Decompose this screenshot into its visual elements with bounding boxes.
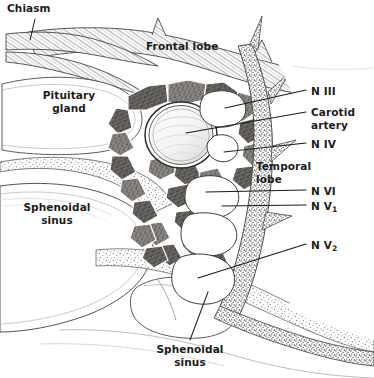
label-n-v1: N V1	[311, 200, 337, 213]
nerve-vi-cross-section	[185, 176, 239, 218]
label-n-iii: N III	[311, 85, 336, 98]
nerve-iii-cross-section	[200, 91, 246, 127]
label-sphenoidal-sinus-bottom-line2: sinus	[140, 356, 240, 369]
nerve-v1-cross-section	[181, 213, 237, 256]
nerve-iv-cross-section	[207, 135, 238, 162]
label-n-v2-prefix: N V	[311, 239, 332, 251]
label-sphenoidal-sinus-bottom-line1: Sphenoidal	[140, 343, 240, 356]
label-n-v1-prefix: N V	[311, 200, 332, 212]
label-sphenoidal-sinus-left-line2: sinus	[10, 214, 104, 227]
nerve-v2-cross-section	[172, 254, 235, 304]
label-n-iv: N IV	[311, 138, 336, 151]
label-frontal-lobe: Frontal lobe	[146, 40, 218, 53]
label-chiasm: Chiasm	[7, 2, 51, 15]
label-carotid-artery-line1: Carotid	[311, 106, 355, 119]
label-temporal-lobe-line1: Temporal	[256, 160, 311, 173]
label-n-vi: N VI	[311, 185, 336, 198]
label-sphenoidal-sinus-left-line1: Sphenoidal	[10, 201, 104, 214]
label-n-v2: N V2	[311, 239, 337, 252]
label-n-v2-subscript: 2	[332, 244, 337, 253]
label-n-v1-subscript: 1	[332, 205, 337, 214]
label-pituitary-gland-line1: Pituitary	[28, 89, 110, 102]
cavernous-sinus-figure: Chiasm Frontal lobe Pituitary gland Sphe…	[0, 0, 374, 378]
label-pituitary-gland-line2: gland	[28, 102, 110, 115]
label-temporal-lobe-line2: lobe	[256, 173, 282, 186]
label-carotid-artery-line2: artery	[311, 119, 348, 132]
